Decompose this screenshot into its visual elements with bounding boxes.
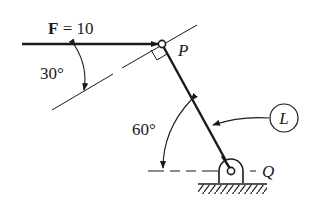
force-label: F = 10 [48,19,93,38]
pin-q-icon [227,167,234,174]
pin-support-q [198,156,267,194]
mechanics-diagram: F = 10 30° P 60° Q L [0,0,318,209]
pin-p-icon [158,40,165,47]
link-callout-arrow [213,118,269,125]
link-label: L [278,109,288,128]
angle-label-30: 30° [40,64,64,83]
point-q-label: Q [262,162,274,181]
angle-arc-30 [75,46,85,90]
link-bar [162,44,231,170]
right-angle-marker [151,50,167,60]
angle-label-60: 60° [132,120,156,139]
angle-arc-60 [163,100,191,168]
ground-hatch [198,185,267,194]
point-p-label: P [177,41,188,60]
